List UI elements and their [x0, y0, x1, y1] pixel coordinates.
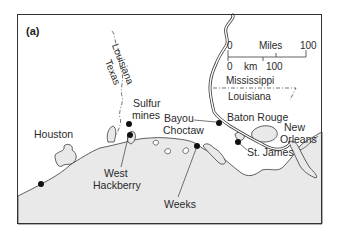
bayou-choctaw-label-line1: Bayou [164, 112, 194, 124]
bayou-choctaw-label-line2: Choctaw [163, 124, 204, 136]
louisiana-label-east: Louisiana [228, 91, 271, 103]
scale-miles-label: Miles [259, 40, 282, 52]
scale-km-start: 0 [227, 61, 233, 73]
sulfur-mines-label-line1: Sulfur [133, 97, 160, 109]
mississippi-label: Mississippi [226, 75, 274, 87]
houston-marker[interactable] [38, 181, 44, 187]
houston-label: Houston [34, 128, 73, 140]
sulfur-mines-label-line2: mines [132, 109, 160, 121]
st-james-label: St. James [247, 146, 294, 158]
west-hackberry-marker[interactable] [127, 132, 133, 138]
small-lake [165, 149, 171, 154]
small-lake [183, 148, 189, 154]
st-james-leader [240, 144, 247, 150]
bayou-choctaw-leader [194, 120, 216, 122]
new-orleans-label-line2: Orleans [280, 133, 317, 145]
west-hackberry-label-line1: West [104, 167, 128, 179]
scale-km-label: km [244, 61, 257, 73]
scale-km-end: 100 [266, 61, 283, 73]
sulfur-mines-marker[interactable] [126, 121, 132, 127]
scale-miles-end: 100 [300, 40, 317, 52]
bayou-choctaw-marker[interactable] [216, 120, 222, 126]
scale-miles-start: 0 [227, 40, 233, 52]
baton-rouge-label: Baton Rouge [227, 111, 288, 123]
sabine-lake [107, 126, 116, 142]
west-hackberry-label-line2: Hackberry [93, 179, 141, 191]
small-lake [153, 140, 158, 145]
galveston-bay [55, 144, 76, 166]
panel-label: (a) [26, 25, 39, 37]
weeks-marker[interactable] [194, 143, 200, 149]
weeks-label: Weeks [164, 198, 196, 210]
new-orleans-label-line1: New [284, 121, 305, 133]
